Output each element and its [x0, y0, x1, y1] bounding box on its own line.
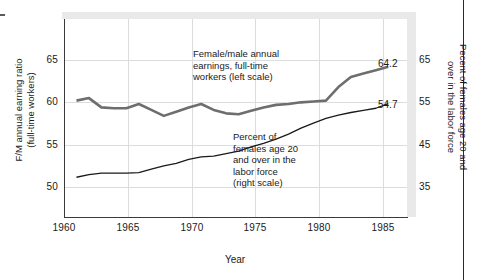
y-axis-left-title: F/M annual earning ratio (full-time work… [13, 25, 37, 195]
x-tick-1960: 1960 [44, 222, 84, 233]
y-right-tick-3: 35 [419, 181, 443, 192]
x-tick-1975: 1975 [235, 222, 275, 233]
annotation-labor-force: Percent of females age 20 and over in th… [233, 131, 298, 189]
y-axis-right-title-line2: over in the labor force [445, 12, 457, 202]
y-right-tick-0: 65 [419, 54, 443, 65]
x-axis-title: Year [175, 254, 295, 265]
y-right-tick-2: 45 [419, 139, 443, 150]
end-value-label-labor-force: 54.7 [378, 99, 397, 110]
x-tick-1970: 1970 [172, 222, 212, 233]
x-tick-1980: 1980 [299, 222, 339, 233]
x-tick-1965: 1965 [108, 222, 148, 233]
y-axis-right-title-line1: Pecent of females age 20 and [457, 12, 469, 202]
x-tick-1985: 1985 [363, 222, 403, 233]
end-value-label-earnings-ratio: 64.2 [378, 58, 397, 69]
y-axis-right-title: Pecent of females age 20 and over in the… [445, 12, 469, 202]
y-axis-left-title-line2: (full-time workers) [25, 25, 37, 195]
y-right-tick-1: 55 [419, 96, 443, 107]
y-axis-left-title-line1: F/M annual earning ratio [13, 25, 25, 195]
chart-figure: 65 60 55 50 65 55 45 35 1960 1965 1970 1… [0, 0, 479, 280]
annotation-earnings-ratio: Female/male annual earnings, full-time w… [193, 48, 279, 83]
